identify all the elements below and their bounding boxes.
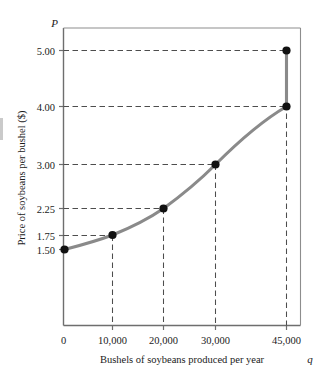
supply-curve-figure: 5.00 4.00 3.00 2.25 1.75 1.50 0 10,000 2… <box>0 0 323 375</box>
x-tick-label-20000: 20,000 <box>149 335 178 346</box>
vertical-guide-lines <box>113 51 287 326</box>
supply-curve-path <box>65 107 287 250</box>
data-point-45000-5-00 <box>282 46 290 54</box>
data-point-20000-2-25 <box>159 204 167 212</box>
horizontal-guide-lines <box>64 51 287 236</box>
x-axis-tick-labels: 0 10,000 20,000 30,000 45,000 <box>61 335 301 346</box>
y-tick-label-175: 1.75 <box>37 231 55 242</box>
y-tick-label-225: 2.25 <box>37 204 55 215</box>
y-tick-label-300: 3.00 <box>37 160 55 171</box>
y-axis-tick-labels: 5.00 4.00 3.00 2.25 1.75 1.50 <box>37 46 55 256</box>
chart-canvas: 5.00 4.00 3.00 2.25 1.75 1.50 0 10,000 2… <box>0 0 323 375</box>
x-axis-variable-label: q <box>307 353 313 365</box>
x-tick-label-45000: 45,000 <box>272 335 301 346</box>
x-axis-title: Bushels of soybeans produced per year <box>100 354 265 365</box>
y-tick-label-150: 1.50 <box>37 245 55 256</box>
x-tick-label-30000: 30,000 <box>201 335 230 346</box>
data-point-30000-3-00 <box>211 160 219 168</box>
data-point-0-1-50 <box>60 245 68 253</box>
y-tick-label-400: 4.00 <box>37 102 55 113</box>
data-point-markers <box>60 46 290 253</box>
data-point-45000-4-00 <box>282 102 290 110</box>
y-axis-title: Price of soybeans per bushel ($) <box>16 110 28 246</box>
y-tick-label-500: 5.00 <box>37 46 55 57</box>
x-tick-label-10000: 10,000 <box>98 335 127 346</box>
x-tick-label-0: 0 <box>61 335 66 346</box>
data-point-10000-1-75 <box>108 231 116 239</box>
y-axis-variable-label: P <box>50 17 58 29</box>
axis-frame <box>64 28 301 326</box>
